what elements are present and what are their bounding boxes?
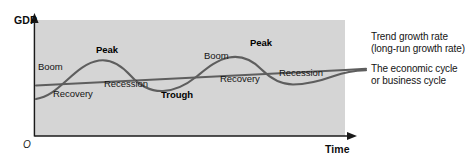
phase-label-boom-2: Boom xyxy=(204,51,229,61)
legend-economic-cycle: The economic cycle or business cycle xyxy=(371,63,458,86)
phase-label-peak-2: Peak xyxy=(250,38,272,48)
phase-label-recession-1: Recession xyxy=(104,79,148,89)
phase-label-boom-1: Boom xyxy=(38,62,63,72)
legend-trend-growth-rate-line2: (long-run growth rate) xyxy=(371,43,465,55)
phase-label-recovery-1: Recovery xyxy=(53,89,93,99)
phase-label-trough: Trough xyxy=(161,90,193,100)
legend-trend-growth-rate: Trend growth rate (long-run growth rate) xyxy=(371,31,465,54)
legend-economic-cycle-line2: or business cycle xyxy=(371,75,458,87)
y-axis-label: GDP xyxy=(14,15,37,26)
origin-label: O xyxy=(23,140,31,150)
legend-trend-growth-rate-line1: Trend growth rate xyxy=(371,31,465,43)
legend-economic-cycle-line1: The economic cycle xyxy=(371,63,458,75)
phase-label-peak-1: Peak xyxy=(96,45,118,55)
x-axis-label: Time xyxy=(325,144,350,155)
phase-label-recovery-2: Recovery xyxy=(220,74,260,84)
phase-label-recession-2: Recession xyxy=(279,68,323,78)
